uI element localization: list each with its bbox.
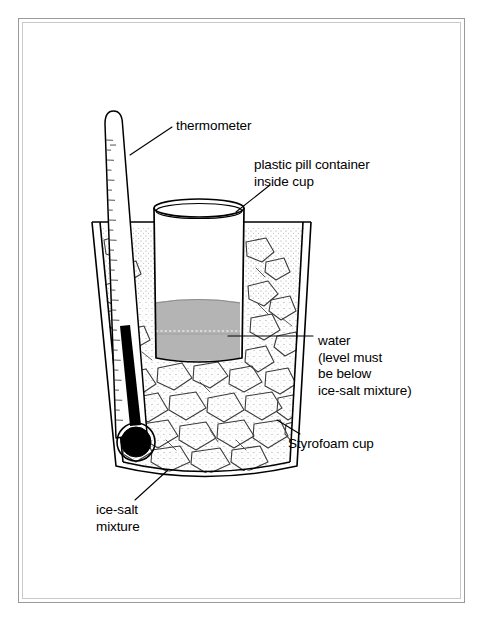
water-body <box>156 299 240 362</box>
label-ice-line2: mixture <box>96 519 140 534</box>
label-pill-line1: plastic pill container <box>254 157 370 172</box>
label-water: water(level mustbe belowice-salt mixture… <box>318 333 412 399</box>
label-water-line3: be below <box>318 366 371 381</box>
label-water-line4: ice-salt mixture) <box>318 383 412 398</box>
diagram-canvas <box>0 0 483 621</box>
label-ice-salt-mixture: ice-saltmixture <box>96 502 140 535</box>
label-plastic-pill-container: plastic pill containerinside cup <box>254 157 370 190</box>
label-water-line1: water <box>318 333 351 348</box>
label-ice-line1: ice-salt <box>96 502 138 517</box>
ice-salt-leader <box>135 470 168 500</box>
diagram-page: thermometer plastic pill containerinside… <box>0 0 483 621</box>
label-styrofoam-cup: Styrofoam cup <box>288 436 374 453</box>
label-thermometer: thermometer <box>176 118 251 135</box>
thermometer-leader <box>130 127 172 155</box>
label-water-line2: (level must <box>318 350 382 365</box>
plastic-pill-container <box>154 199 244 362</box>
label-pill-line2: inside cup <box>254 174 314 189</box>
